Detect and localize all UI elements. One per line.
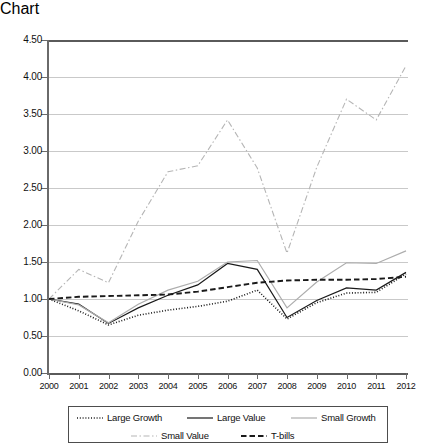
legend-label: Large Growth xyxy=(107,412,162,423)
x-axis-label: 2009 xyxy=(302,382,332,391)
legend-swatch-dotted-icon xyxy=(77,413,103,423)
x-axis-label: 2012 xyxy=(391,382,421,391)
legend-row-1: Large GrowthLarge ValueSmall Growth xyxy=(69,409,387,426)
legend-item-small-value[interactable]: Small Value xyxy=(131,427,209,444)
legend-label: T-bills xyxy=(271,430,294,441)
y-axis-label: 0.50 xyxy=(0,331,42,341)
x-axis-label: 2011 xyxy=(361,382,391,391)
x-axis-label: 2006 xyxy=(213,382,243,391)
legend-item-small-growth[interactable]: Small Growth xyxy=(291,409,376,426)
legend-item-large-growth[interactable]: Large Growth xyxy=(77,409,162,426)
y-axis-label: 1.50 xyxy=(0,257,42,267)
y-axis-label: 4.50 xyxy=(0,35,42,45)
chart-legend: Large GrowthLarge ValueSmall Growth Smal… xyxy=(68,406,388,443)
y-axis-label: 0.00 xyxy=(0,368,42,378)
legend-item-t-bills[interactable]: T-bills xyxy=(241,427,294,444)
x-axis-label: 2001 xyxy=(64,382,94,391)
x-axis-label: 2005 xyxy=(183,382,213,391)
y-axis-label: 3.50 xyxy=(0,109,42,119)
legend-label: Small Value xyxy=(161,430,209,441)
legend-swatch-solid-icon xyxy=(187,413,213,423)
series-lines xyxy=(47,40,408,375)
x-axis-label: 2003 xyxy=(123,382,153,391)
y-axis-label: 4.00 xyxy=(0,72,42,82)
series-line-large-growth xyxy=(49,274,406,325)
x-axis-label: 2007 xyxy=(242,382,272,391)
legend-swatch-dashed-icon xyxy=(241,431,267,441)
x-axis-label: 2004 xyxy=(153,382,183,391)
y-axis-label: 1.00 xyxy=(0,294,42,304)
x-axis-label: 2008 xyxy=(272,382,302,391)
x-axis-label: 2010 xyxy=(332,382,362,391)
x-axis-label: 2000 xyxy=(34,382,64,391)
legend-swatch-solid-icon xyxy=(291,413,317,423)
legend-swatch-dashdot-icon xyxy=(131,431,157,441)
legend-label: Small Growth xyxy=(321,412,376,423)
legend-item-large-value[interactable]: Large Value xyxy=(187,409,265,426)
legend-label: Large Value xyxy=(217,412,265,423)
plot-area xyxy=(47,40,408,375)
y-axis-label: 3.00 xyxy=(0,146,42,156)
chart-figure: 0.000.501.001.502.002.503.003.504.004.50… xyxy=(0,18,422,447)
y-axis-label: 2.50 xyxy=(0,183,42,193)
y-axis-label: 2.00 xyxy=(0,220,42,230)
legend-row-2: Small ValueT-bills xyxy=(69,427,387,444)
x-axis-label: 2002 xyxy=(94,382,124,391)
